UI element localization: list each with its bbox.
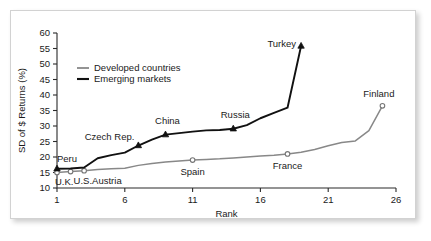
y-tick-label: 15 (39, 167, 50, 178)
x-tick-label: 21 (323, 194, 334, 205)
y-tick-label: 55 (39, 43, 50, 54)
y-tick-label: 45 (39, 74, 50, 85)
data-point-marker (68, 169, 73, 174)
y-tick-label: 10 (39, 182, 50, 193)
x-tick-label: 16 (255, 194, 266, 205)
x-tick-label: 11 (188, 194, 198, 205)
point-label-u-s: U.S. (74, 175, 92, 186)
figure-root: 10152025303540455055601611162126RankSD o… (0, 0, 431, 241)
point-label-peru: Peru (57, 153, 77, 164)
point-label-france: France (273, 160, 303, 171)
y-tick-label: 40 (39, 89, 50, 100)
y-tick-label: 50 (39, 58, 50, 69)
data-point-marker (298, 42, 304, 48)
y-tick-label: 35 (39, 105, 50, 116)
x-tick-label: 26 (391, 194, 402, 205)
y-tick-label: 60 (39, 27, 50, 38)
y-tick-label: 20 (39, 151, 50, 162)
x-tick-label: 1 (54, 194, 59, 205)
point-label-turkey: Turkey (267, 38, 296, 49)
point-label-russia: Russia (221, 109, 251, 120)
point-label-spain: Spain (180, 166, 204, 177)
data-point-marker (380, 104, 385, 109)
point-label-finland: Finland (363, 88, 394, 99)
point-label-china: China (155, 115, 181, 126)
point-label-austria: Austria (92, 175, 122, 186)
x-axis-title: Rank (215, 208, 237, 218)
data-point-marker (190, 158, 195, 163)
legend-label-1: Emerging markets (94, 73, 171, 84)
legend-label-0: Developed countries (94, 62, 181, 73)
figure-frame: 10152025303540455055601611162126RankSD o… (10, 10, 416, 219)
x-tick-label: 6 (122, 194, 127, 205)
data-point-marker (82, 168, 87, 173)
data-point-marker (285, 152, 290, 157)
point-label-czech-rep: Czech Rep. (85, 131, 135, 142)
point-label-u-k: U.K. (55, 176, 73, 187)
y-axis-title: SD of $ Returns (%) (16, 68, 27, 153)
y-tick-label: 30 (39, 120, 50, 131)
y-tick-label: 25 (39, 136, 50, 147)
line-chart: 10152025303540455055601611162126RankSD o… (11, 11, 415, 218)
